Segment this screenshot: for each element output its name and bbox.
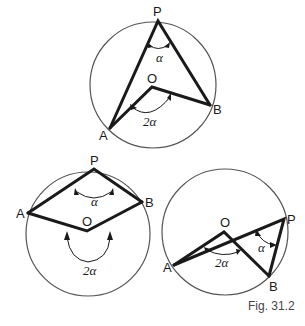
- label-alpha: α: [156, 50, 164, 65]
- label-P: P: [90, 153, 99, 168]
- arrow-icon: [147, 42, 153, 48]
- figure-bottom-left: P O A B α 2α: [16, 153, 154, 296]
- figure-bottom-right: O P A B α 2α: [162, 169, 296, 295]
- label-two-alpha: 2α: [143, 114, 158, 129]
- label-P: P: [287, 212, 296, 227]
- label-A: A: [163, 260, 172, 275]
- label-O: O: [147, 71, 157, 86]
- two-alpha-arc-bottom-left: [67, 237, 110, 262]
- inscribed-angle-bottom-left: [28, 169, 142, 213]
- arrow-icon: [109, 188, 114, 195]
- label-O: O: [82, 214, 92, 229]
- label-A: A: [16, 206, 25, 221]
- arrow-icon: [107, 231, 113, 240]
- label-B: B: [145, 195, 154, 210]
- arrow-icon: [64, 231, 70, 240]
- arrow-icon: [164, 42, 170, 48]
- label-B: B: [269, 279, 278, 294]
- label-two-alpha: 2α: [83, 263, 98, 278]
- arrow-icon: [74, 188, 79, 195]
- label-P: P: [153, 4, 162, 19]
- figure-caption: Fig. 31.2: [248, 299, 295, 313]
- label-O: O: [220, 215, 230, 230]
- label-B: B: [213, 102, 222, 117]
- diagram-canvas: P O A B α 2α P O A B α 2α: [0, 0, 305, 326]
- figure-top: P O A B α 2α: [90, 4, 222, 148]
- label-two-alpha: 2α: [215, 255, 230, 270]
- label-alpha: α: [258, 240, 266, 255]
- arrow-icon: [236, 249, 241, 255]
- label-alpha: α: [91, 194, 99, 209]
- label-A: A: [99, 128, 108, 143]
